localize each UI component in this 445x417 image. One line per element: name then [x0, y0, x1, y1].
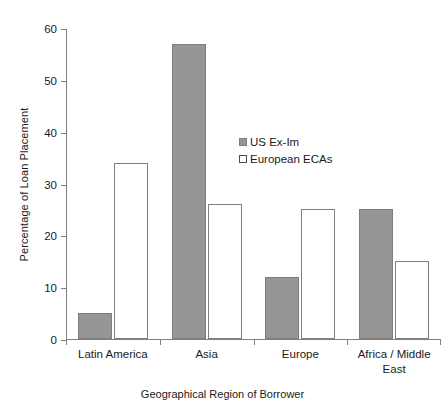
y-axis-tick-mark — [61, 185, 66, 186]
x-axis-tick-mark — [347, 340, 348, 345]
legend-label-us-ex-im: US Ex-Im — [250, 136, 299, 148]
bar-european-ecas — [301, 209, 335, 339]
x-axis-tick-mark — [160, 340, 161, 345]
y-axis-tick-label: 50 — [44, 75, 57, 87]
y-axis-tick-label: 20 — [44, 230, 57, 242]
x-axis-category-label: Europe — [254, 347, 348, 362]
chart-legend: US Ex-Im European ECAs — [239, 133, 332, 167]
x-axis-category-label: Asia — [160, 347, 254, 362]
bar-chart: Percentage of Loan Placement 01020304050… — [0, 0, 445, 417]
bar-european-ecas — [395, 261, 429, 339]
legend-item-european-ecas: European ECAs — [239, 150, 332, 167]
y-axis-tick-label: 0 — [51, 334, 57, 346]
y-axis-tick-label: 40 — [44, 127, 57, 139]
bar-european-ecas — [208, 204, 242, 339]
x-axis-tick-mark — [66, 340, 67, 345]
y-axis-tick-label: 10 — [44, 282, 57, 294]
y-axis-tick-mark — [61, 29, 66, 30]
y-axis-tick-mark — [61, 236, 66, 237]
x-axis-tick-mark — [440, 340, 441, 345]
x-axis-title: Geographical Region of Borrower — [0, 388, 445, 400]
bar-us-ex-im — [265, 277, 299, 339]
y-axis-tick-label: 30 — [44, 179, 57, 191]
legend-swatch-icon-european-ecas — [239, 155, 247, 163]
y-axis-tick-mark — [61, 133, 66, 134]
x-axis-category-label: Africa / Middle East — [347, 347, 441, 377]
legend-label-european-ecas: European ECAs — [250, 153, 332, 165]
y-axis-tick-label: 60 — [44, 23, 57, 35]
bar-us-ex-im — [172, 44, 206, 339]
x-axis-tick-mark — [254, 340, 255, 345]
bar-european-ecas — [114, 163, 148, 339]
y-axis-tick-mark — [61, 81, 66, 82]
legend-swatch-icon-us-ex-im — [239, 138, 247, 146]
y-axis-line — [66, 29, 67, 340]
legend-item-us-ex-im: US Ex-Im — [239, 133, 332, 150]
x-axis-category-label: Latin America — [66, 347, 160, 362]
y-axis-tick-mark — [61, 288, 66, 289]
bar-us-ex-im — [359, 209, 393, 339]
bar-us-ex-im — [78, 313, 112, 339]
y-axis-title: Percentage of Loan Placement — [16, 29, 32, 340]
plot-area: 0102030405060 — [66, 29, 441, 340]
